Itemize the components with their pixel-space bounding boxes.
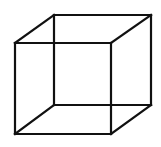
front-face: [15, 43, 111, 134]
necker-cube-diagram: [0, 0, 161, 147]
connecting-edges: [15, 15, 151, 134]
back-face: [54, 15, 151, 105]
